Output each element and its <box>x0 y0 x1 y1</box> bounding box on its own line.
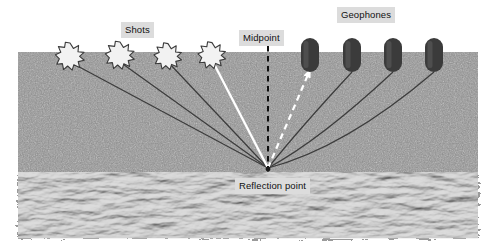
label-geophones: Geophones <box>337 7 395 23</box>
reflection-point-marker <box>266 167 271 172</box>
geophone-1[interactable] <box>301 38 319 72</box>
geophone-3[interactable] <box>384 38 402 72</box>
label-midpoint: Midpoint <box>239 30 284 46</box>
label-reflection-point: Reflection point <box>235 178 310 194</box>
seismic-reflection-diagram: Shots Midpoint Geophones Reflection poin… <box>0 0 496 250</box>
geophone-4[interactable] <box>425 38 443 72</box>
geophone-2[interactable] <box>343 38 361 72</box>
label-shots: Shots <box>121 22 154 38</box>
